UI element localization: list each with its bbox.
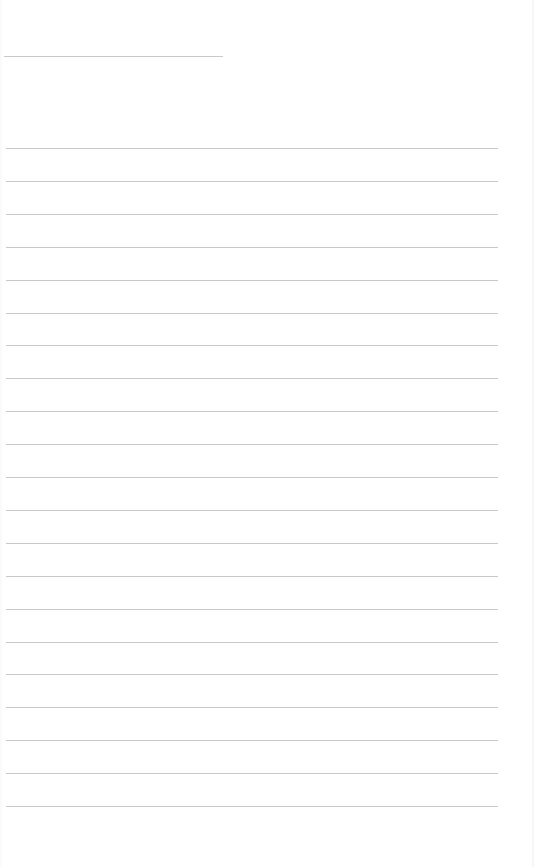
ruled-line <box>6 247 498 248</box>
ruled-line <box>6 609 498 610</box>
header-rule-line <box>4 56 223 57</box>
ruled-line <box>6 345 498 346</box>
ruled-line <box>6 148 498 149</box>
ruled-line <box>6 806 498 807</box>
ruled-line <box>6 378 498 379</box>
ruled-line <box>6 411 498 412</box>
ruled-line <box>6 444 498 445</box>
ruled-line <box>6 642 498 643</box>
ruled-line <box>6 740 498 741</box>
ruled-line <box>6 543 498 544</box>
ruled-line <box>6 674 498 675</box>
ruled-line <box>6 477 498 478</box>
ruled-line <box>6 214 498 215</box>
ruled-line <box>6 576 498 577</box>
lined-paper-page <box>0 0 534 867</box>
ruled-line <box>6 313 498 314</box>
ruled-line <box>6 707 498 708</box>
ruled-line <box>6 773 498 774</box>
ruled-line <box>6 280 498 281</box>
ruled-line <box>6 510 498 511</box>
ruled-line <box>6 181 498 182</box>
